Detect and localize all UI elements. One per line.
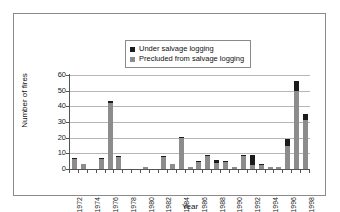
bar-group [196,161,201,169]
bar-segment-precluded-from-salvage-logging [108,103,113,169]
bar-segment-precluded-from-salvage-logging [143,167,148,169]
y-axis-tick-mark [66,153,69,154]
y-axis-tick-mark [66,106,69,107]
y-axis-title: Number of fires [20,69,29,133]
y-axis-tick-label: 10 [58,149,66,157]
bar-group [205,155,210,169]
bar-segment-precluded-from-salvage-logging [241,156,246,169]
x-axis-title: Year [70,202,310,211]
y-axis-tick-labels: 0102030405060 [44,69,66,175]
y-axis-tick-label: 20 [58,134,66,142]
plot-area [70,75,310,169]
bar-segment-under-salvage-logging [294,81,299,90]
bar-segment-precluded-from-salvage-logging [285,146,290,170]
y-axis-tick-label: 50 [58,87,66,95]
bar-segment-precluded-from-salvage-logging [294,91,299,169]
bar-segment-precluded-from-salvage-logging [81,164,86,169]
bar-segment-precluded-from-salvage-logging [259,165,264,169]
bar-group [250,155,255,169]
bar-group [285,139,290,169]
chart-figure-frame: Under salvage logging Precluded from sal… [13,13,326,196]
bar-group [223,161,228,169]
gridline [70,122,310,123]
y-axis-tick-mark [66,169,69,170]
bar-segment-precluded-from-salvage-logging [196,162,201,169]
y-axis-tick-mark [66,91,69,92]
chart-legend: Under salvage logging Precluded from sal… [125,40,251,68]
bar-group [116,156,121,169]
gridline [70,138,310,139]
square-marker-icon [130,47,135,52]
bar-segment-precluded-from-salvage-logging [268,167,273,169]
y-axis-tick-mark [66,122,69,123]
y-axis-tick-mark [66,138,69,139]
y-axis-tick-label: 60 [58,71,66,79]
bar-segment-precluded-from-salvage-logging [99,159,104,169]
gridline [70,106,310,107]
bar-segment-precluded-from-salvage-logging [170,164,175,169]
bar-segment-precluded-from-salvage-logging [116,157,121,169]
bar-segment-precluded-from-salvage-logging [276,167,281,169]
bar-group [214,160,219,169]
bar-segment-precluded-from-salvage-logging [72,159,77,169]
y-axis-tick-mark [66,75,69,76]
bar-segment-precluded-from-salvage-logging [188,167,193,169]
bar-group [72,158,77,169]
gridline [70,153,310,154]
bar-segment-precluded-from-salvage-logging [303,120,308,169]
bar-segment-precluded-from-salvage-logging [161,157,166,169]
bar-segment-precluded-from-salvage-logging [232,167,237,169]
bar-segment-under-salvage-logging [250,155,255,165]
x-axis-tick-labels: 1972197419761978198019821984198619881990… [69,173,314,199]
y-axis-tick-label: 30 [58,118,66,126]
bar-segment-precluded-from-salvage-logging [214,163,219,169]
bar-segment-precluded-from-salvage-logging [223,162,228,169]
bar-group [303,114,308,169]
legend-label: Precluded from salvage logging [139,55,244,63]
gridline [70,91,310,92]
legend-entry-precluded-from-salvage-logging: Precluded from salvage logging [130,54,244,64]
bar-group [108,101,113,169]
legend-label: Under salvage logging [139,45,214,53]
bar-group [161,156,166,169]
bar-group [294,81,299,169]
bar-segment-precluded-from-salvage-logging [179,138,184,169]
bar-group [179,137,184,169]
bar-segment-precluded-from-salvage-logging [250,165,255,169]
y-axis-tick-label: 40 [58,102,66,110]
bar-group [99,158,104,169]
bar-segment-precluded-from-salvage-logging [205,156,210,169]
gridline [70,75,310,76]
bar-group [241,155,246,169]
bar-group [259,164,264,169]
legend-entry-under-salvage-logging: Under salvage logging [130,44,244,54]
square-marker-icon [130,57,135,62]
